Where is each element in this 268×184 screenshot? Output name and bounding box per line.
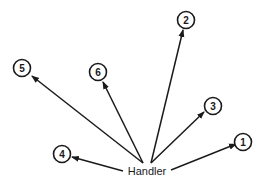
node-6: 6 — [90, 64, 107, 81]
node-2: 2 — [178, 12, 195, 29]
arrow-to-node-4 — [72, 157, 123, 171]
node-4: 4 — [54, 146, 71, 163]
node-1: 1 — [235, 134, 252, 151]
arrow-to-node-5 — [32, 76, 143, 163]
handler-label: Handler — [128, 165, 167, 177]
nodes: 123456 — [14, 12, 252, 163]
node-label: 3 — [210, 101, 216, 112]
node-label: 1 — [240, 137, 246, 148]
diagram-canvas: 123456 Handler — [0, 0, 268, 184]
handler-diagram: 123456 Handler — [0, 0, 268, 184]
arrow-to-node-6 — [103, 82, 143, 163]
arrow-to-node-3 — [151, 112, 204, 163]
arrow-to-node-2 — [151, 30, 183, 163]
node-label: 4 — [59, 149, 65, 160]
node-5: 5 — [14, 60, 31, 77]
node-label: 5 — [19, 63, 25, 74]
node-label: 2 — [183, 15, 189, 26]
node-label: 6 — [95, 67, 101, 78]
node-3: 3 — [205, 98, 222, 115]
arrow-to-node-1 — [171, 144, 236, 170]
